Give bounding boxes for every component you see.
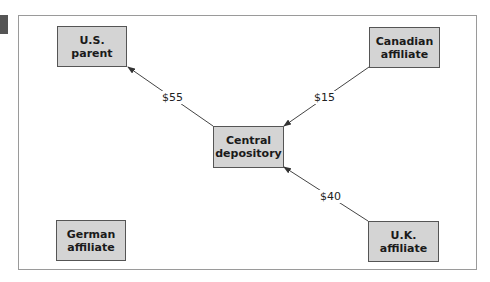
- node-line2: parent: [71, 47, 112, 60]
- node-us-parent: U.S.parent: [57, 26, 127, 67]
- node-line1: U.S.: [79, 34, 104, 47]
- node-central-depository: Centraldepository: [213, 126, 284, 168]
- node-line1: Canadian: [376, 35, 434, 48]
- node-canadian-affiliate: Canadianaffiliate: [369, 27, 440, 68]
- node-line2: affiliate: [67, 241, 114, 254]
- node-line1: U.K.: [391, 229, 417, 242]
- edge-label-15: $15: [312, 91, 337, 104]
- node-line2: depository: [215, 147, 282, 160]
- node-german-affiliate: Germanaffiliate: [56, 220, 126, 261]
- edge-label-40: $40: [318, 190, 343, 203]
- edge-label-55: $55: [160, 91, 185, 104]
- node-line2: affiliate: [380, 242, 427, 255]
- node-line1: Central: [226, 134, 271, 147]
- node-uk-affiliate: U.K.affiliate: [368, 221, 439, 262]
- node-line2: affiliate: [381, 48, 428, 61]
- node-line1: German: [67, 228, 116, 241]
